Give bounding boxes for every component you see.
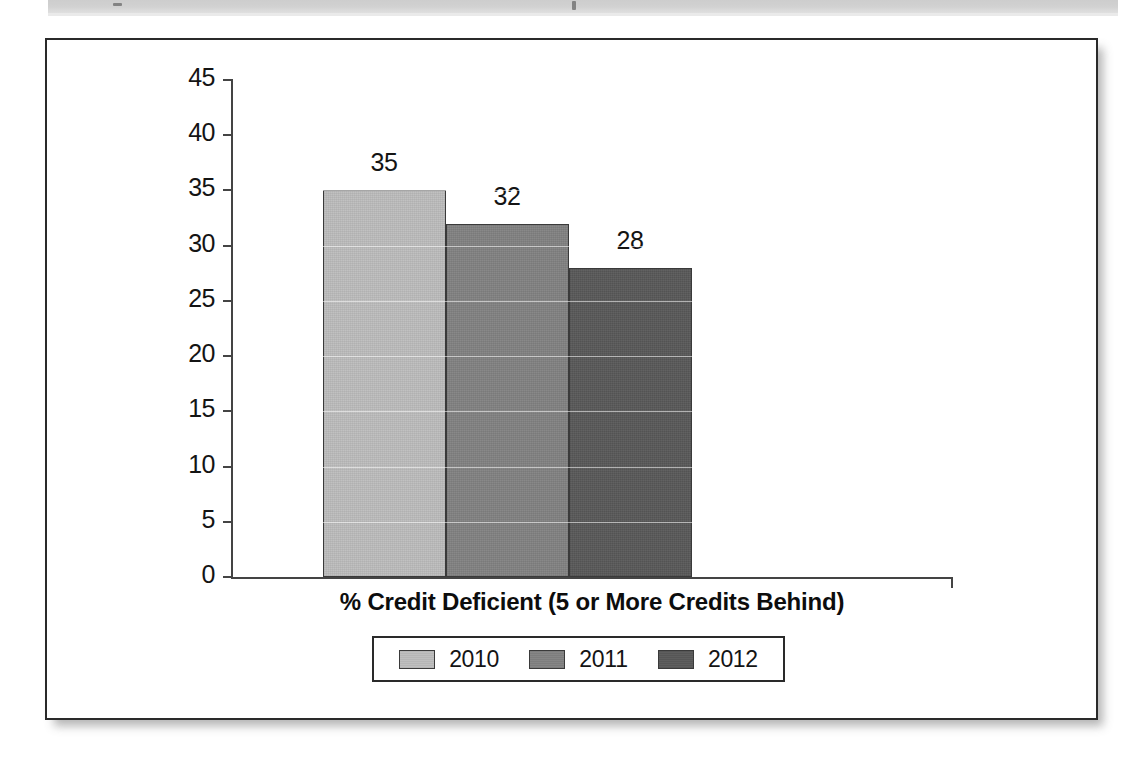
gridline [233,246,953,247]
bars-layer [47,40,1100,722]
gridline [233,522,953,523]
scan-speck [113,3,122,6]
chart-figure-frame: 454035302520151050 353228 % Credit Defic… [45,38,1098,720]
gridline [233,356,953,357]
gridline [233,301,953,302]
scan-speck [572,1,576,10]
gridline [233,411,953,412]
plot-area: 454035302520151050 353228 % Credit Defic… [47,40,1100,722]
gridline [233,190,953,191]
gridline [233,80,953,81]
bar-2011 [446,224,569,577]
bar-2012 [569,268,692,577]
scanned-page-header-band [48,0,1118,13]
bar-2010 [323,190,446,577]
gridline [233,135,953,136]
gridline [233,467,953,468]
